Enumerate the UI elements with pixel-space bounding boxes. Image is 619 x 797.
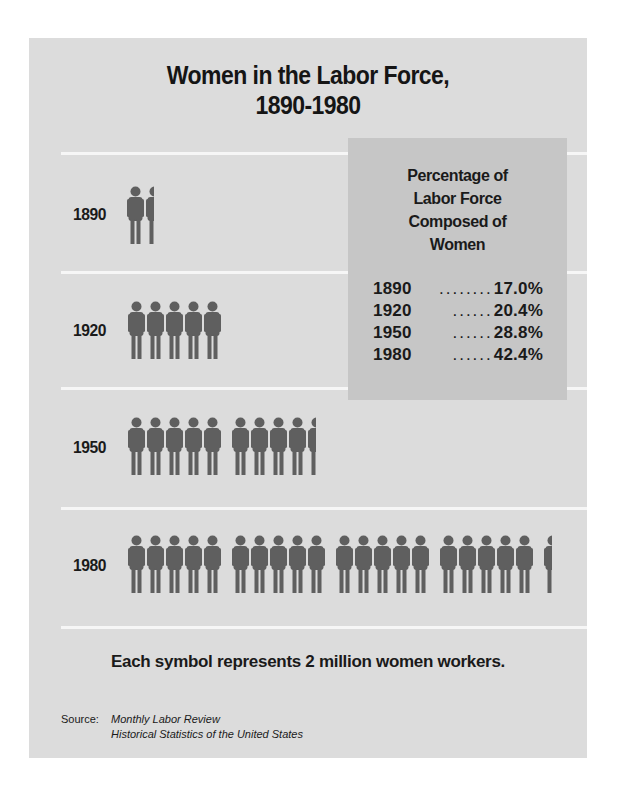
woman-figure-icon [458,535,477,595]
pictograph-row-1950 [127,417,325,477]
woman-figure-icon [203,417,222,477]
year-label-1890: 1890 [73,205,106,225]
inset-table: 1890 ........ 17.0% 1920 ...... 20.4% 19… [373,278,543,366]
woman-figure-icon [165,301,184,361]
woman-figure-icon [126,186,145,246]
source-citation: Source:Monthly Labor Review Historical S… [61,712,303,742]
figure-group [231,535,326,595]
pictograph-row-1980 [127,535,561,595]
woman-figure-icon [250,417,269,477]
partial-woman-figure-icon [543,535,552,595]
row-divider [61,507,587,510]
woman-figure-icon [515,535,534,595]
woman-figure-icon [307,535,326,595]
woman-figure-icon [203,535,222,595]
woman-figure-icon [165,417,184,477]
inset-row-1980: 1980 ...... 42.4% [373,344,543,366]
inset-row-1890: 1890 ........ 17.0% [373,278,543,300]
inset-row-1950: 1950 ...... 28.8% [373,322,543,344]
woman-figure-icon [269,535,288,595]
woman-figure-icon [203,301,222,361]
woman-figure-icon [439,535,458,595]
infographic-panel: Women in the Labor Force, 1890-1980 1890… [29,38,587,758]
figure-group [231,417,316,477]
woman-figure-icon [269,417,288,477]
inset-title: Percentage of Labor Force Composed of Wo… [348,164,567,256]
woman-figure-icon [127,535,146,595]
figure-group [439,535,534,595]
percentage-inset-box: Percentage of Labor Force Composed of Wo… [348,138,567,400]
row-divider [61,626,587,629]
year-label-1950: 1950 [73,438,106,458]
woman-figure-icon [165,535,184,595]
woman-figure-icon [392,535,411,595]
woman-figure-icon [411,535,430,595]
partial-woman-figure-icon [307,417,316,477]
woman-figure-icon [146,417,165,477]
figure-group [127,301,222,361]
woman-figure-icon [335,535,354,595]
woman-figure-icon [373,535,392,595]
woman-figure-icon [184,535,203,595]
woman-figure-icon [127,417,146,477]
woman-figure-icon [288,417,307,477]
symbol-legend-note: Each symbol represents 2 million women w… [29,652,587,672]
woman-figure-icon [146,301,165,361]
woman-figure-icon [146,535,165,595]
woman-figure-icon [127,301,146,361]
figure-group [126,186,154,246]
figure-group [127,417,222,477]
woman-figure-icon [477,535,496,595]
figure-group [127,535,222,595]
pictograph-row-1890 [126,186,163,246]
title-line-1: Women in the Labor Force, [51,60,564,90]
woman-figure-icon [184,417,203,477]
inset-row-1920: 1920 ...... 20.4% [373,300,543,322]
figure-group [335,535,430,595]
woman-figure-icon [231,417,250,477]
chart-title: Women in the Labor Force, 1890-1980 [51,60,564,120]
pictograph-row-1920 [127,301,231,361]
figure-group [543,535,552,595]
woman-figure-icon [496,535,515,595]
year-label-1920: 1920 [73,321,106,341]
partial-woman-figure-icon [145,186,154,246]
woman-figure-icon [354,535,373,595]
woman-figure-icon [231,535,250,595]
woman-figure-icon [288,535,307,595]
woman-figure-icon [184,301,203,361]
title-line-2: 1890-1980 [51,90,564,120]
year-label-1980: 1980 [73,556,106,576]
woman-figure-icon [250,535,269,595]
